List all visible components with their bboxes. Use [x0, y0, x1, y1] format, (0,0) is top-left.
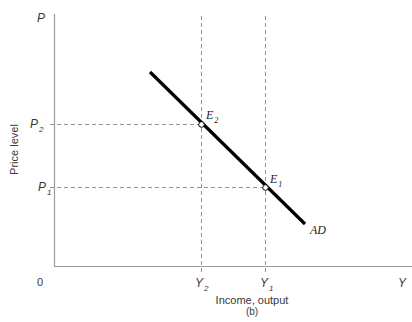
y1-symbol: Y: [260, 276, 268, 290]
ad-curve: [150, 72, 305, 224]
e2-symbol: E: [206, 108, 213, 122]
e1-point: [263, 185, 269, 191]
e2-point: [199, 122, 205, 128]
y2-tick-label: Y2: [195, 277, 208, 289]
y-axis-symbol: P: [37, 12, 45, 24]
p1-symbol: P: [38, 180, 46, 194]
x-axis-symbol: Y: [398, 277, 406, 289]
p2-symbol: P: [30, 117, 38, 131]
y1-tick-label: Y1: [260, 277, 273, 289]
p1-sub: 1: [47, 188, 51, 197]
p2-tick-label: P2: [30, 118, 43, 130]
panel-label: (b): [197, 307, 307, 317]
p1-tick-label: P1: [38, 181, 51, 193]
y-axis-title: Price level: [9, 120, 20, 180]
p2-sub: 2: [39, 125, 43, 134]
ad-curve-label: AD: [310, 224, 326, 236]
origin-label: 0: [37, 277, 43, 288]
e2-sub: 2: [214, 116, 218, 125]
y2-symbol: Y: [195, 276, 203, 290]
e1-label: E1: [270, 173, 282, 185]
e1-symbol: E: [270, 172, 277, 186]
e1-sub: 1: [278, 180, 282, 189]
e2-label: E2: [206, 109, 218, 121]
x-axis-title: Income, output: [197, 295, 307, 306]
y1-sub: 1: [269, 284, 273, 293]
y2-sub: 2: [204, 284, 208, 293]
ad-chart: [0, 0, 412, 322]
